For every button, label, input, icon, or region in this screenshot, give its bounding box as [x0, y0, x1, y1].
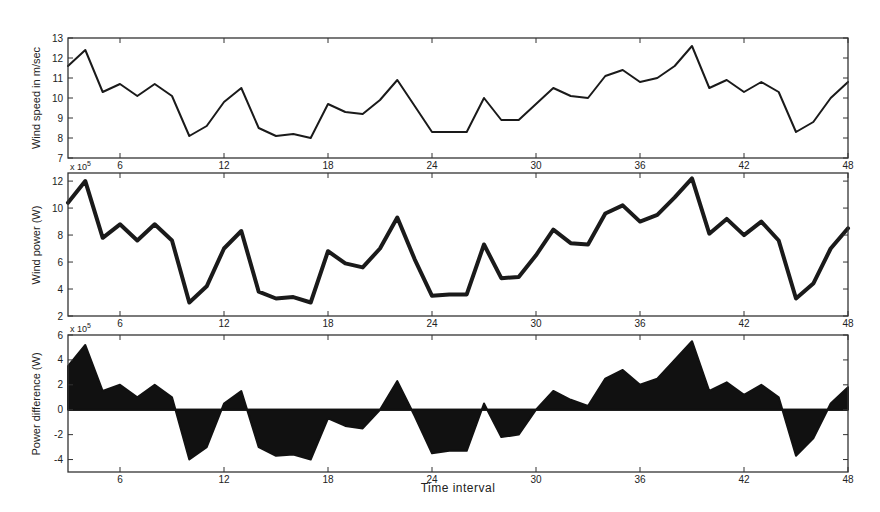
- x-tick-label: 24: [426, 318, 438, 329]
- y-tick-label: 4: [57, 284, 63, 295]
- figure: 61218243036424878910111213 6121824303642…: [0, 0, 880, 512]
- x-tick-label: 36: [634, 160, 646, 171]
- x-tick-label: 48: [842, 160, 854, 171]
- wind-speed-line: [68, 46, 848, 138]
- wind-power-multiplier: x 105: [70, 160, 91, 172]
- power-difference-y-axis-label: Power difference (W): [30, 352, 42, 455]
- x-tick-label: 6: [117, 318, 123, 329]
- x-tick-label: 42: [738, 318, 750, 329]
- wind-speed-panel: 61218243036424878910111213: [52, 33, 854, 172]
- x-tick-label: 42: [738, 160, 750, 171]
- y-tick-label: 6: [57, 330, 63, 341]
- wind-power-y-axis-label: Wind power (W): [30, 206, 42, 285]
- x-tick-label: 6: [117, 160, 123, 171]
- y-tick-label: 6: [57, 257, 63, 268]
- x-tick-label: 18: [322, 474, 334, 485]
- wind-speed-y-axis-label: Wind speed in m/sec: [30, 46, 42, 149]
- y-tick-label: 2: [57, 311, 63, 322]
- power-difference-area: [68, 341, 848, 459]
- y-tick-label: 11: [53, 73, 64, 84]
- y-tick-label: 10: [52, 203, 64, 214]
- wind-power-panel: 61218243036424824681012: [52, 173, 854, 329]
- y-tick-label: 10: [52, 93, 64, 104]
- x-tick-label: 48: [842, 474, 854, 485]
- y-tick-label: 12: [52, 53, 64, 64]
- x-tick-label: 30: [530, 160, 542, 171]
- power-difference-panel: 612182430364248-4-20246: [54, 330, 854, 486]
- x-tick-label: 24: [426, 160, 438, 171]
- x-tick-label: 12: [218, 160, 230, 171]
- power-difference-multiplier: x 105: [70, 322, 91, 334]
- y-tick-label: 9: [57, 113, 63, 124]
- x-tick-label: 18: [322, 318, 334, 329]
- x-tick-label: 36: [634, 318, 646, 329]
- y-tick-label: 12: [52, 176, 64, 187]
- y-tick-label: -2: [54, 429, 63, 440]
- x-tick-label: 6: [117, 474, 123, 485]
- x-axis-label: Time interval: [421, 481, 496, 495]
- x-tick-label: 48: [842, 318, 854, 329]
- x-tick-label: 12: [218, 318, 230, 329]
- y-tick-label: 8: [57, 230, 63, 241]
- x-tick-label: 42: [738, 474, 750, 485]
- x-tick-label: 18: [322, 160, 334, 171]
- chart-canvas: 61218243036424878910111213 6121824303642…: [0, 0, 880, 512]
- x-tick-label: 30: [530, 318, 542, 329]
- y-tick-label: 0: [57, 404, 63, 415]
- y-tick-label: -4: [54, 454, 63, 465]
- y-tick-label: 4: [57, 354, 63, 365]
- x-tick-label: 30: [530, 474, 542, 485]
- x-tick-label: 36: [634, 474, 646, 485]
- wind-speed-axes-frame: [68, 38, 848, 158]
- x-tick-label: 12: [218, 474, 230, 485]
- y-tick-label: 8: [57, 133, 63, 144]
- wind-power-line: [68, 178, 848, 302]
- y-tick-label: 2: [57, 379, 63, 390]
- y-tick-label: 13: [52, 33, 64, 44]
- y-tick-label: 7: [57, 153, 63, 164]
